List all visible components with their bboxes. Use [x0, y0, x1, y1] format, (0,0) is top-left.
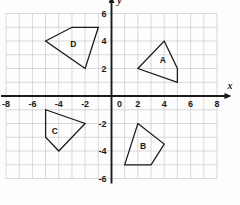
x-tick-label: -6 — [28, 99, 36, 109]
shape-label-d: D — [70, 39, 76, 49]
x-tick-label: 4 — [162, 99, 167, 109]
x-axis-name: x — [226, 80, 232, 91]
y-tick-label: 6 — [101, 9, 106, 19]
shape-label-c: C — [52, 126, 58, 136]
y-tick-label: 4 — [101, 36, 106, 46]
y-tick-label: -4 — [98, 146, 106, 156]
coordinate-plane-figure: -8-6-4-202468642-2-4-6 ABCD xy — [0, 0, 240, 205]
shape-label-a: A — [160, 55, 166, 65]
coordinate-grid-svg: -8-6-4-202468642-2-4-6 ABCD xy — [0, 0, 240, 205]
x-tick-label: 0 — [117, 99, 122, 109]
x-tick-label: -4 — [55, 99, 63, 109]
shape-label-b: B — [140, 141, 146, 151]
y-tick-label: -6 — [98, 174, 106, 184]
axis-lines — [1, 3, 225, 184]
y-axis-name: y — [116, 0, 122, 6]
y-tick-label: -2 — [98, 119, 106, 129]
x-tick-label: 8 — [214, 99, 219, 109]
x-tick-label: -8 — [2, 99, 10, 109]
shape-polygon-a — [138, 41, 178, 82]
x-tick-label: 2 — [135, 99, 140, 109]
x-tick-label: 6 — [188, 99, 193, 109]
x-tick-label: -2 — [81, 99, 89, 109]
y-tick-label: 2 — [101, 64, 106, 74]
